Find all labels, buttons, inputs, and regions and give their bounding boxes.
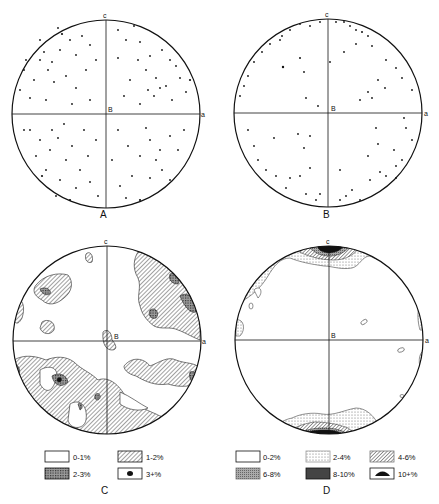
panel-label-d: D	[323, 485, 330, 496]
petrofabric-figure: c a B A c a B B	[0, 0, 439, 504]
axis-label-c: c	[325, 11, 329, 18]
panel-label-a: A	[100, 209, 107, 220]
axis-label-b: B	[331, 332, 336, 339]
svg-text:8-10%: 8-10%	[333, 470, 355, 479]
legend-item: 0-2%	[236, 451, 281, 462]
svg-text:2-4%: 2-4%	[333, 453, 351, 462]
panel-c: c a B C	[13, 238, 206, 496]
legend-item: 8-10%	[306, 468, 355, 479]
axis-label-a: a	[425, 337, 429, 344]
axis-label-a: a	[201, 111, 205, 118]
svg-text:0-1%: 0-1%	[73, 453, 91, 462]
axis-label-a: a	[202, 338, 206, 345]
panel-label-b: B	[323, 209, 330, 220]
legend-item: 4-6%	[370, 451, 416, 462]
axis-label-b: B	[331, 105, 336, 112]
legend-item: 3+%	[118, 468, 162, 479]
svg-text:2-3%: 2-3%	[73, 470, 91, 479]
axis-label-c: c	[103, 12, 107, 19]
svg-text:6-8%: 6-8%	[263, 470, 281, 479]
legend-item: 2-3%	[45, 468, 91, 479]
axis-label-c: c	[326, 238, 330, 245]
svg-text:0-2%: 0-2%	[263, 453, 281, 462]
legend-item: 10+%	[370, 468, 418, 479]
panel-a: c a B A	[12, 12, 205, 220]
legend-d: 0-2% 2-4% 4-6% 6-8% 8-10% 10+%	[236, 451, 418, 479]
svg-text:10+%: 10+%	[398, 470, 418, 479]
legend-item: 2-4%	[306, 451, 351, 462]
svg-text:3+%: 3+%	[146, 470, 162, 479]
axis-label-b: B	[108, 106, 113, 113]
panel-label-c: C	[101, 485, 108, 496]
legend-item: 0-1%	[45, 451, 91, 462]
panel-b: c a B B	[234, 11, 428, 220]
axis-label-c: c	[104, 238, 108, 245]
legend-c: 0-1% 1-2% 2-3% 3+%	[45, 451, 164, 479]
axis-label-b: B	[114, 333, 119, 340]
svg-text:4-6%: 4-6%	[398, 453, 416, 462]
svg-text:1-2%: 1-2%	[146, 453, 164, 462]
axis-label-a: a	[424, 110, 428, 117]
legend-item: 1-2%	[118, 451, 164, 462]
legend-item: 6-8%	[236, 468, 281, 479]
